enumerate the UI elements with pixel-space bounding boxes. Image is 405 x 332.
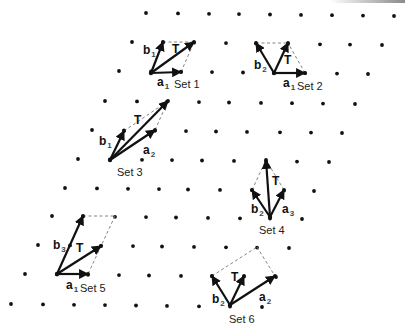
vector-endpoint — [210, 274, 214, 278]
lattice-point — [300, 217, 304, 221]
lattice-point — [63, 186, 67, 190]
lattice-point — [200, 159, 204, 163]
vector-origin — [55, 272, 59, 276]
lattice-point — [197, 100, 201, 104]
lattice-point — [287, 246, 291, 250]
lattice-point — [72, 303, 76, 307]
vector-origin — [228, 303, 232, 307]
vector-t-arrow — [110, 101, 168, 160]
lattice-point — [95, 187, 99, 191]
vector-set-4: b2a3TSet 4 — [250, 158, 295, 236]
lattice-point — [380, 43, 384, 47]
vector-set-1: a1b1TSet 1 — [143, 40, 200, 91]
lattice-point — [361, 14, 365, 18]
lattice-point — [224, 41, 228, 45]
lattice-point — [210, 70, 214, 74]
lattice-point — [260, 305, 264, 309]
lattice-diagram: a1b1TSet 1a1b2TSet 2b1a2TSet 3b2a3TSet 4… — [0, 0, 405, 332]
lattice-svg: a1b1TSet 1a1b2TSet 2b1a2TSet 3b2a3TSet 4… — [0, 0, 405, 332]
lattice-point — [157, 187, 161, 191]
lattice-point — [340, 131, 344, 135]
vector-label: a1 — [66, 278, 79, 294]
vector-label: T — [76, 241, 84, 255]
lattice-point — [227, 101, 231, 105]
vector-label: b1 — [143, 43, 156, 59]
lattice-point — [117, 69, 121, 73]
lattice-point — [335, 72, 339, 76]
lattice-point — [147, 274, 151, 278]
vector-label: T — [231, 270, 239, 284]
lattice-point — [176, 12, 180, 16]
lattice-point — [160, 245, 164, 249]
lattice-point — [117, 273, 121, 277]
vector-set-2: a1b2TSet 2 — [254, 41, 323, 92]
lattice-point — [103, 303, 107, 307]
lattice-point — [134, 304, 138, 308]
lattice-point — [130, 40, 134, 44]
vector-label: a1 — [157, 75, 170, 91]
lattice-point — [207, 12, 211, 16]
vector-endpoint — [273, 274, 277, 278]
vector-t-arrow — [266, 160, 270, 217]
vector-set-3: b1a2TSet 3 — [99, 99, 170, 178]
lattice-point — [224, 245, 228, 249]
lattice-point — [170, 158, 174, 162]
vector-sets: a1b1TSet 1a1b2TSet 2b1a2TSet 3b2a3TSet 4… — [53, 40, 323, 325]
lattice-point — [348, 43, 352, 47]
set-label: Set 1 — [174, 78, 200, 90]
lattice-point — [144, 215, 148, 219]
vector-endpoint — [242, 274, 246, 278]
parallelogram-edge — [124, 101, 168, 131]
vector-endpoint — [99, 244, 103, 248]
lattice-point — [184, 129, 188, 133]
lattice-point — [392, 14, 396, 18]
lattice-point — [179, 274, 183, 278]
vector-label: a3 — [282, 202, 295, 218]
lattice-point — [312, 189, 316, 193]
lattice-point — [9, 302, 13, 306]
parallelogram-edge — [257, 247, 275, 276]
lattice-point — [23, 272, 27, 276]
lattice-point — [192, 245, 196, 249]
set-label: Set 5 — [80, 282, 106, 294]
lattice-point — [299, 13, 303, 17]
lattice-point — [131, 244, 135, 248]
vector-endpoint — [282, 188, 286, 192]
set-label: Set 2 — [297, 80, 323, 92]
vector-label: a2 — [143, 143, 156, 159]
lattice-point — [174, 216, 178, 220]
lattice-point — [140, 158, 144, 162]
vector-set-6: b2Ta2Set 6 — [210, 247, 277, 325]
lattice-point — [241, 71, 245, 75]
vector-origin — [108, 158, 112, 162]
lattice-point — [135, 100, 139, 104]
lattice-point — [126, 187, 130, 191]
vector-label: b1 — [99, 134, 112, 150]
vector-label: a1 — [283, 76, 296, 92]
vector-endpoint — [254, 41, 258, 45]
lattice-point — [318, 42, 322, 46]
lattice-point — [238, 216, 242, 220]
vector-label: T — [134, 113, 142, 127]
lattice-point — [295, 160, 299, 164]
lattice-point — [353, 102, 357, 106]
vector-label: T — [284, 53, 292, 67]
lattice-point — [144, 11, 148, 15]
lattice-point — [214, 130, 218, 134]
vector-endpoint — [286, 41, 290, 45]
vector-endpoint — [161, 40, 165, 44]
lattice-point — [259, 101, 263, 105]
lattice-point — [206, 216, 210, 220]
lattice-point — [76, 157, 80, 161]
set-label: Set 4 — [259, 224, 285, 236]
lattice-point — [290, 101, 294, 105]
vector-endpoint — [153, 128, 157, 132]
lattice-point — [50, 214, 54, 218]
vector-endpoint — [303, 71, 307, 75]
lattice-point — [36, 243, 40, 247]
vector-endpoint — [166, 99, 170, 103]
lattice-point — [90, 128, 94, 132]
vector-endpoint — [86, 272, 90, 276]
lattice-point — [330, 13, 334, 17]
lattice-point — [309, 131, 313, 135]
